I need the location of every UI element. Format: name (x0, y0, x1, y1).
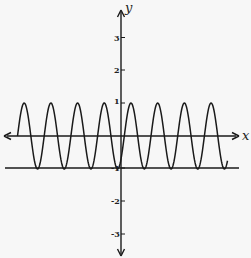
x-axis: x (4, 128, 250, 143)
y-tick-minus-3: -3 (111, 229, 120, 239)
y-tick-2: 2 (114, 65, 120, 75)
graph: x y 3 2 1 -1 -2 -3 (0, 0, 251, 258)
y-tick-3: 3 (114, 33, 120, 43)
y-axis: y 3 2 1 -1 -2 -3 (111, 0, 133, 256)
y-tick-1: 1 (114, 96, 120, 106)
y-axis-label: y (124, 0, 133, 15)
y-tick-minus-2: -2 (111, 196, 120, 206)
x-axis-label: x (242, 128, 250, 143)
